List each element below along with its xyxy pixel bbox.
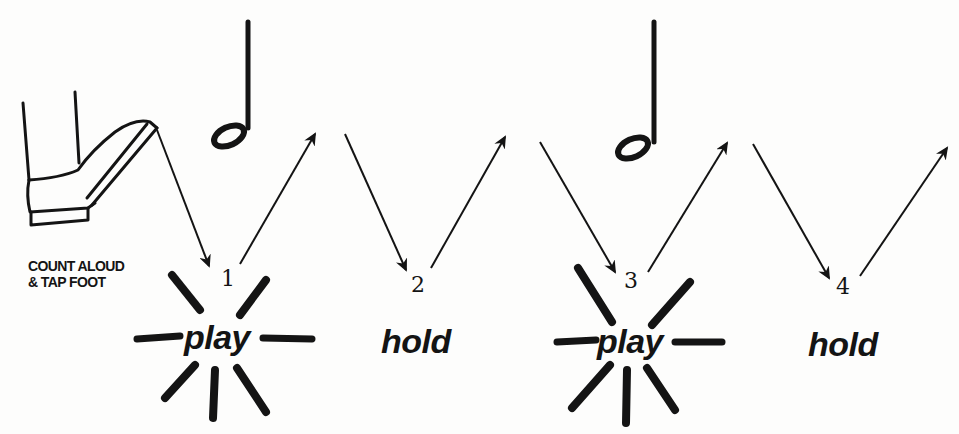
beat-number-2: 2 (411, 272, 425, 297)
arrow-up-icon (860, 148, 947, 276)
action-word-hold: hold (381, 322, 451, 361)
instruction-caption: COUNT ALOUD & TAP FOOT (28, 258, 124, 290)
beat-number-1: 1 (221, 266, 235, 291)
caption-line-2: & TAP FOOT (28, 274, 124, 290)
action-word-play: play (597, 322, 663, 361)
action-word-play: play (184, 318, 250, 357)
half-note-counting-diagram: COUNT ALOUD & TAP FOOT 1 2 3 4 play hold… (0, 0, 959, 434)
half-note-icon (211, 22, 248, 151)
arrow-up-icon (431, 137, 505, 268)
arrow-down-icon (157, 130, 209, 266)
tapping-foot-icon (23, 92, 157, 225)
caption-line-1: COUNT ALOUD (28, 258, 124, 274)
action-word-hold: hold (808, 325, 878, 364)
arrow-down-icon (540, 142, 615, 272)
tap-arrows (157, 130, 947, 278)
beat-number-4: 4 (836, 274, 850, 299)
arrow-down-icon (345, 134, 406, 270)
half-note-icon (615, 22, 654, 163)
arrow-down-icon (753, 144, 829, 278)
beat-number-3: 3 (624, 268, 638, 293)
diagram-artwork (0, 0, 959, 434)
arrow-up-icon (240, 134, 315, 264)
arrow-up-icon (648, 143, 727, 272)
